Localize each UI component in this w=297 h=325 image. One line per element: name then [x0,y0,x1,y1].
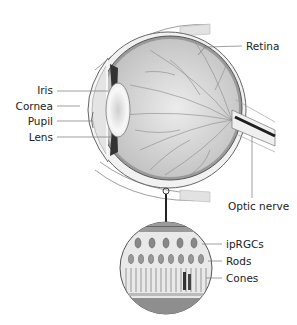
label-iris: Iris [37,84,53,96]
label-lens: Lens [29,131,53,143]
retina-magnified [118,222,214,314]
label-pupil: Pupil [28,115,53,127]
label-rods: Rods [226,255,251,267]
label-retina: Retina [246,40,279,52]
anterior-chamber [92,66,106,154]
label-cones: Cones [226,272,258,284]
lens [106,83,130,137]
zoom-marker [163,188,169,194]
label-optic-nerve: Optic nerve [228,200,289,212]
label-iprgcs: ipRGCs [226,238,264,250]
label-cornea: Cornea [16,100,53,112]
